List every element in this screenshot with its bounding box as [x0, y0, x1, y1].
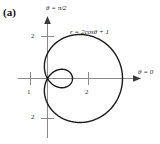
tick-label-x-left: 1	[27, 88, 31, 96]
tick-label-y-positive: 2	[31, 32, 35, 40]
curve-equation-label: r = 2cosθ + 1	[70, 28, 109, 36]
axis-label-horizontal: θ = 0	[138, 68, 153, 76]
polar-plot-canvas	[0, 0, 160, 144]
tick-marks-group	[31, 37, 89, 119]
y-axis-arrowhead	[44, 16, 51, 24]
x-axis-arrowhead	[133, 75, 141, 82]
axis-label-vertical: θ = π/2	[46, 4, 67, 12]
tick-label-y-negative: 2	[31, 113, 35, 121]
tick-label-x-right: 2	[85, 88, 89, 96]
